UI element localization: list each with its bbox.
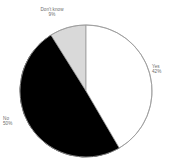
pie-label-yes: Yes 42% <box>152 64 176 75</box>
pie-chart-figure: Don't know 9% Yes 42% No 50% <box>0 0 179 167</box>
pie-label-dontknow: Don't know 9% <box>32 7 72 18</box>
pie-label-no-percent: 50% <box>3 121 27 126</box>
pie-label-yes-percent: 42% <box>152 69 176 74</box>
pie-label-dontknow-percent: 9% <box>32 12 72 17</box>
pie-label-no: No 50% <box>3 116 27 127</box>
pie-chart-svg <box>0 0 179 167</box>
